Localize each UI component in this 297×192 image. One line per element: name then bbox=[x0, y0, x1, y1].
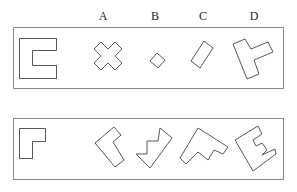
row-2-frame bbox=[14, 119, 284, 180]
option-label-a: A bbox=[99, 9, 108, 23]
option-label-b: B bbox=[151, 9, 159, 23]
option-label-c: C bbox=[199, 9, 207, 23]
row-2-option-b-zigzag bbox=[136, 128, 172, 168]
row-1-frame bbox=[14, 28, 284, 89]
row-1-option-b-square bbox=[150, 53, 165, 68]
row-1-option-a-cross bbox=[94, 42, 122, 70]
row-1-option-d-t-shape bbox=[233, 39, 273, 79]
row-2-option-d-e-shape bbox=[235, 126, 276, 171]
row-2-option-a-l-shape bbox=[95, 127, 124, 167]
row-1-reference-c-shape bbox=[20, 39, 57, 79]
row-2-option-c-stepped bbox=[180, 128, 228, 164]
row-1-option-c-rectangle bbox=[191, 41, 213, 68]
row-2-reference-l-shape bbox=[20, 129, 46, 159]
puzzle-figure: A B C D bbox=[0, 0, 297, 192]
option-label-d: D bbox=[250, 9, 259, 23]
